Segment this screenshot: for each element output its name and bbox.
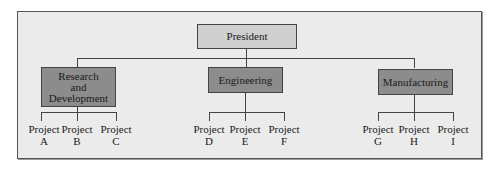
project-f: Project F <box>262 123 306 147</box>
project-h-id: H <box>392 135 436 147</box>
connector-president-down <box>246 48 247 58</box>
connector-mfg <box>414 58 415 68</box>
project-i-name: Project <box>431 123 475 135</box>
project-b-id: B <box>55 135 99 147</box>
project-f-id: F <box>262 135 306 147</box>
project-i: Project I <box>431 123 475 147</box>
project-c-name: Project <box>94 123 138 135</box>
president-label: President <box>227 31 268 42</box>
project-c-id: C <box>94 135 138 147</box>
connector-eng-down <box>245 92 246 112</box>
project-h: Project H <box>392 123 436 147</box>
connector-mfg-horizontal <box>378 112 454 113</box>
connector-eng-e <box>245 112 246 121</box>
project-c: Project C <box>94 123 138 147</box>
department-box-engineering: Engineering <box>208 67 283 93</box>
project-b-name: Project <box>55 123 99 135</box>
connector-mfg-i <box>453 112 454 121</box>
department-box-manufacturing: Manufacturing <box>378 69 453 95</box>
connector-eng-horizontal <box>209 112 285 113</box>
department-box-rd: Research and Development <box>41 67 116 107</box>
manufacturing-label: Manufacturing <box>383 77 448 88</box>
project-f-name: Project <box>262 123 306 135</box>
project-e-id: E <box>223 135 267 147</box>
connector-mfg-h <box>414 112 415 121</box>
connector-mfg-down <box>414 94 415 112</box>
rd-label-line3: Development <box>49 93 108 104</box>
connector-rd-a <box>41 112 42 121</box>
project-e-name: Project <box>223 123 267 135</box>
connector-rd-c <box>116 112 117 121</box>
project-i-id: I <box>431 135 475 147</box>
rd-label-line2: and <box>71 82 87 93</box>
connector-eng-d <box>209 112 210 121</box>
connector-rd-b <box>77 112 78 121</box>
project-h-name: Project <box>392 123 436 135</box>
rd-label-line1: Research <box>58 71 98 82</box>
engineering-label: Engineering <box>219 75 273 86</box>
connector-eng-f <box>284 112 285 121</box>
president-box: President <box>197 24 297 49</box>
project-e: Project E <box>223 123 267 147</box>
connector-rd-horizontal <box>41 112 117 113</box>
project-b: Project B <box>55 123 99 147</box>
connector-mfg-g <box>378 112 379 121</box>
